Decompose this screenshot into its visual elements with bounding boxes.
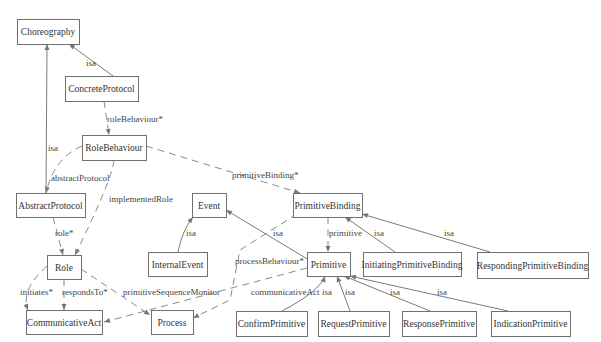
node-label: InitiatingPrimitiveBinding (362, 260, 463, 270)
node-role[interactable]: Role (48, 256, 82, 280)
edge-label-isa: isa (186, 228, 196, 238)
node-indication-primitive[interactable]: IndicationPrimitive (492, 312, 571, 337)
arrowhead-icon (144, 310, 150, 315)
node-event[interactable]: Event (193, 194, 227, 218)
edge-label-primitive-sequence-monitor: primitiveSequenceMonitor (123, 287, 220, 297)
node-label: Role (55, 263, 73, 273)
edge-label-abstract-protocol: abstractProtocol (51, 173, 110, 183)
edge-label-isa: isa (273, 228, 283, 238)
node-responding-primitive-binding[interactable]: RespondingPrimitiveBinding (477, 253, 589, 279)
node-label: ConfirmPrimitive (238, 319, 306, 329)
node-request-primitive[interactable]: RequestPrimitive (319, 312, 390, 337)
edge-label-isa: isa (374, 228, 384, 238)
node-label: Process (157, 318, 186, 328)
arrowhead-icon (326, 246, 331, 252)
node-label: AbstractProtocol (18, 201, 83, 211)
node-communicative-act[interactable]: CommunicativeAct (27, 311, 103, 335)
edge-label-initiates: initiates* (20, 287, 53, 297)
edge-label-process-behaviour: processBehaviour* (235, 256, 304, 266)
edge-response-primitive-to-primitive (344, 276, 430, 311)
edge-label-role-behaviour: roleBehaviour* (107, 114, 163, 124)
node-choreography[interactable]: Choreography (18, 20, 80, 45)
arrowhead-icon (106, 129, 111, 135)
node-abstract-protocol[interactable]: AbstractProtocol (17, 194, 86, 218)
node-label: Choreography (21, 27, 76, 37)
node-process[interactable]: Process (152, 311, 194, 335)
node-label: CommunicativeAct (27, 318, 102, 328)
edge-label-responds-to: respondsTo* (62, 287, 108, 297)
arrowhead-icon (62, 304, 67, 310)
node-confirm-primitive[interactable]: ConfirmPrimitive (237, 312, 308, 337)
edge-label-implemented-role: implementedRole (109, 194, 173, 204)
node-label: Event (198, 201, 221, 211)
edge-label-isa: isa (444, 228, 454, 238)
node-internal-event[interactable]: InternalEvent (149, 253, 208, 277)
node-primitive-binding[interactable]: PrimitiveBinding (294, 194, 363, 218)
edge-label-isa: isa (322, 287, 332, 297)
edge-label-primitive: primitive (329, 228, 362, 238)
node-initiating-primitive-binding[interactable]: InitiatingPrimitiveBinding (362, 253, 463, 277)
edge-label-isa: isa (437, 287, 447, 297)
node-label: RequestPrimitive (321, 319, 387, 329)
node-label: RoleBehaviour (85, 143, 143, 153)
edge-label-primitive-binding: primitiveBinding* (232, 170, 299, 180)
node-label: ConcreteProtocol (68, 84, 135, 94)
node-label: IndicationPrimitive (494, 319, 568, 329)
edge-label-isa: isa (48, 143, 58, 153)
arrowhead-icon (294, 189, 300, 194)
node-label: Primitive (311, 260, 346, 270)
edge-label-isa: isa (86, 58, 96, 68)
edge-indication-primitive-to-primitive (350, 276, 508, 311)
node-label: PrimitiveBinding (295, 201, 361, 211)
edge-label-role: role* (55, 228, 74, 238)
edge-label-isa: isa (390, 287, 400, 297)
node-primitive[interactable]: Primitive (308, 253, 351, 277)
edge-abstract-protocol-to-choreography (46, 44, 47, 193)
node-label: ResponsePrimitive (403, 319, 475, 329)
node-role-behaviour[interactable]: RoleBehaviour (83, 136, 147, 161)
node-concrete-protocol[interactable]: ConcreteProtocol (66, 77, 139, 102)
edge-label-communicative-act: communicativeAct (251, 287, 320, 297)
arrowhead-icon (23, 304, 28, 310)
ontology-diagram: ChoreographyConcreteProtocolRoleBehaviou… (0, 0, 601, 342)
node-label: RespondingPrimitiveBinding (477, 261, 589, 271)
node-response-primitive[interactable]: ResponsePrimitive (403, 312, 477, 337)
edge-label-isa: isa (345, 287, 355, 297)
edge-role-behaviour-to-abstract-protocol (46, 146, 82, 193)
node-label: InternalEvent (152, 260, 204, 270)
